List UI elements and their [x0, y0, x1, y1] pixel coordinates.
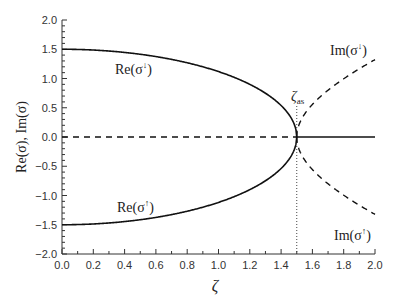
- x-tick-label: 0.2: [86, 259, 101, 271]
- y-tick-label: 1.5: [42, 43, 57, 55]
- x-tick-label: 1.6: [305, 259, 320, 271]
- x-tick-label: 1.8: [336, 259, 351, 271]
- x-tick-label: 0.8: [180, 259, 195, 271]
- x-axis-label: ζ: [212, 277, 220, 295]
- x-tick-label: 0.6: [148, 259, 163, 271]
- y-tick-label: 0.5: [42, 102, 57, 114]
- y-tick-label: 1.0: [42, 73, 57, 85]
- series-im-sigma-up: [297, 137, 375, 214]
- x-tick-labels: 0.00.20.40.60.81.01.21.41.61.82.0: [54, 259, 382, 271]
- label-im-sigma-up: Im(σ↑): [334, 226, 371, 244]
- label-re-sigma-up: Re(σ↑): [117, 198, 154, 216]
- chart: 2.01.51.00.50.0−0.5−1.0−1.5−2.0 0.00.20.…: [0, 0, 397, 305]
- y-tick-label: 0.0: [42, 131, 57, 143]
- y-axis-label: Re(σ), Im(σ): [14, 101, 30, 173]
- label-re-sigma-down: Re(σ↓): [115, 60, 152, 78]
- series-re-sigma-up: [62, 137, 297, 225]
- x-tick-label: 1.2: [242, 259, 257, 271]
- x-tick-label: 1.0: [211, 259, 226, 271]
- x-tick-label: 1.4: [273, 259, 288, 271]
- y-tick-labels: 2.01.51.00.50.0−0.5−1.0−1.5−2.0: [35, 14, 57, 260]
- x-tick-label: 0.4: [117, 259, 132, 271]
- x-tick-label: 2.0: [367, 259, 382, 271]
- series-im-sigma-down: [297, 60, 375, 137]
- x-tick-label: 0.0: [54, 259, 69, 271]
- y-tick-label: −0.5: [35, 160, 57, 172]
- y-tick-label: 2.0: [42, 14, 57, 26]
- label-im-sigma-down: Im(σ↓): [330, 41, 367, 59]
- x-ticks: [62, 249, 375, 254]
- y-tick-label: −1.5: [35, 219, 57, 231]
- curves: [62, 49, 375, 225]
- series-re-sigma-down: [62, 49, 297, 137]
- y-tick-label: −1.0: [35, 190, 57, 202]
- label-zeta-as: ζas: [291, 89, 305, 106]
